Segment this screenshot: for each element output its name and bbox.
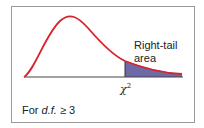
degrees-of-freedom-condition: For d.f. ≥ 3 [22, 104, 75, 116]
chi-square-critical-label: χ2 [120, 80, 131, 96]
right-tail-label: Right-tail [134, 39, 177, 51]
area-label: area [134, 52, 156, 64]
